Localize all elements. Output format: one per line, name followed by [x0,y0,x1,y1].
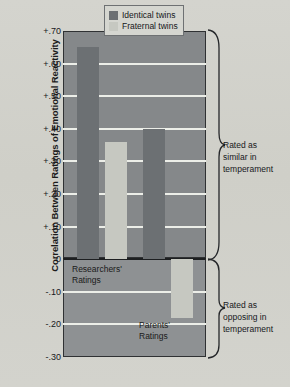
group-label-researchers: Researchers' Ratings [72,264,122,286]
legend-item-identical: Identical twins [109,10,178,20]
group-label-parents: Parents' Ratings [139,320,170,342]
y-tick-label: 0 [25,254,61,264]
y-tick-label: +.10 [25,222,61,232]
legend-swatch-icon-fraternal [109,22,118,31]
figure-canvas: Correlation Between Ratings of Emotional… [0,0,290,387]
gridline [63,323,206,325]
bar-fraternal-parents [171,259,193,318]
y-tick-label: -.20 [25,319,61,329]
y-tick-label: -.10 [25,287,61,297]
y-tick-label: +.40 [25,124,61,134]
y-tick-label: +.70 [25,26,61,36]
bar-identical-researchers [77,47,99,259]
bar-fraternal-researchers [105,142,127,259]
legend-swatch-icon-identical [109,11,118,20]
y-tick-label: +.30 [25,156,61,166]
legend: Identical twins Fraternal twins [104,5,184,36]
legend-item-fraternal: Fraternal twins [109,21,178,31]
y-axis-tick-labels: +.70+.60+.50+.40+.30+.20+.100-.10-.20-.3… [19,0,61,387]
legend-label-fraternal: Fraternal twins [122,21,178,31]
legend-label-identical: Identical twins [122,10,175,20]
bar-identical-parents [143,129,165,259]
plot-area: Researchers' Ratings Parents' Ratings [63,31,206,357]
annotation-similar-temperament: Rated as similar in temperament [223,139,273,175]
annotation-opposing-temperament: Rated as opposing in temperament [223,299,273,335]
y-tick-label: -.30 [25,352,61,362]
y-tick-label: +.60 [25,59,61,69]
y-tick-label: +.50 [25,91,61,101]
y-tick-label: +.20 [25,189,61,199]
